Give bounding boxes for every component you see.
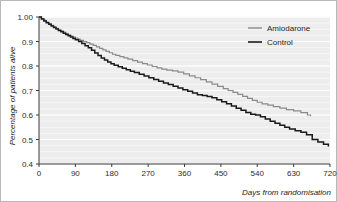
x-tick-label: 0 xyxy=(37,169,42,178)
y-tick-label: 1.00 xyxy=(17,13,33,22)
x-tick-label: 450 xyxy=(214,169,228,178)
legend-label-amiodarone: Amiodarone xyxy=(267,24,311,33)
x-axis-tick-labels: 090180270360450540630720 xyxy=(37,169,337,178)
legend-label-control: Control xyxy=(267,38,293,47)
survival-chart: 090180270360450540630720 0.40.50.60.70.8… xyxy=(1,1,337,202)
x-tick-label: 360 xyxy=(178,169,192,178)
x-axis-title: Days from randomisation xyxy=(242,188,331,197)
x-tick-label: 90 xyxy=(71,169,80,178)
y-tick-label: 0.9 xyxy=(22,38,34,47)
y-axis-tick-labels: 0.40.50.60.70.80.91.00 xyxy=(17,13,33,169)
x-tick-label: 180 xyxy=(105,169,119,178)
y-tick-label: 0.5 xyxy=(22,136,34,145)
y-axis-title: Percentage of patients alive xyxy=(8,46,17,145)
figure-container: 090180270360450540630720 0.40.50.60.70.8… xyxy=(0,0,337,202)
x-tick-label: 270 xyxy=(141,169,155,178)
y-tick-label: 0.4 xyxy=(22,160,34,169)
x-tick-label: 630 xyxy=(287,169,301,178)
y-tick-label: 0.7 xyxy=(22,87,34,96)
y-tick-label: 0.8 xyxy=(22,62,34,71)
y-tick-label: 0.6 xyxy=(22,111,34,120)
x-tick-label: 720 xyxy=(323,169,337,178)
x-tick-label: 540 xyxy=(251,169,265,178)
